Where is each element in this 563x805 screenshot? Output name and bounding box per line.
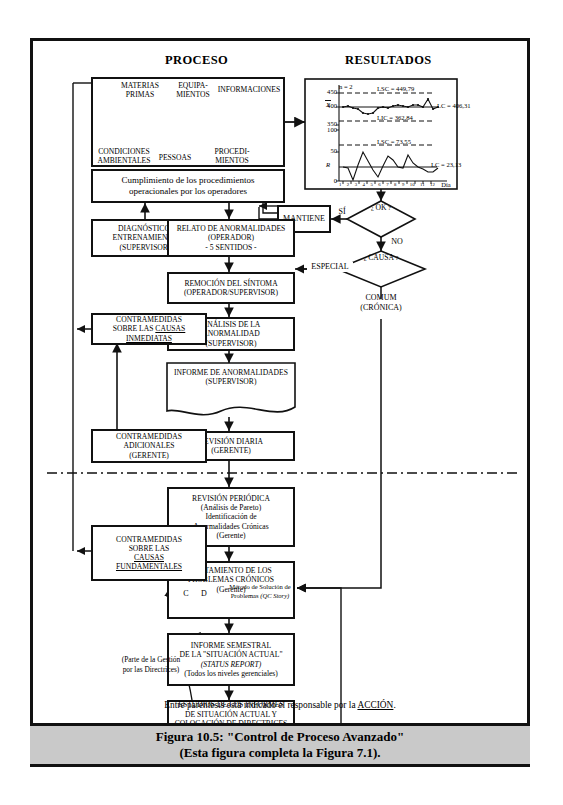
diagram-canvas: PROCESO RESULTADOS MATERIAS PRIMAS EQUIP… (33, 41, 533, 761)
caption-line-1: Figura 10.5: "Control de Proceso Avanzad… (156, 729, 404, 745)
chart-xbar-lc-label: LC = 406,31 (437, 102, 493, 110)
gestion-directrices-note: (Parte de la Gestión por las Directrices… (117, 655, 185, 675)
cause-informaciones: INFORMACIONES (215, 85, 283, 94)
chart-ytick-50: 50 (319, 147, 337, 155)
figure-footnote: Entre paréntesis está indicado el respon… (30, 700, 530, 710)
edge-label-si: SÍ (329, 207, 355, 217)
chart-ytick-400: 400 (319, 102, 337, 110)
chart-xlabel: Día (435, 181, 457, 189)
header-proceso: PROCESO (165, 53, 228, 68)
pdca-d-label: D (197, 589, 211, 599)
header-resultados: RESULTADOS (345, 53, 432, 68)
chart-ytick-100: 100 (319, 126, 337, 134)
node-cumplimiento: Cumplimiento de los procedimientos opera… (91, 169, 285, 203)
node-ok-diamond: ¿ OK ? (363, 204, 399, 212)
chart-xbar-lic-label: LIC = 362,84 (377, 114, 447, 122)
cause-procedimientos: PROCEDI- MIENTOS (207, 147, 257, 165)
chart-xtick-labels: 12 34 56 78 910 1112 (339, 182, 435, 188)
tratamiento-method-note: Método de Solución de Problemas (QC Stor… (229, 583, 291, 600)
node-remocion-sintoma: REMOCIÓN DEL SÍNTOMA (OPERADOR/SUPERVISO… (167, 272, 295, 304)
edge-label-no: NO (385, 237, 409, 247)
cause-equipamientos: EQUIPA- MIENTOS (167, 81, 219, 99)
node-contramedidas-inmediatas: CONTRAMEDIDAS SOBRE LAS CAUSAS INMEDIATA… (91, 313, 207, 345)
cause-pessoas: PESSOAS (153, 153, 197, 162)
edge-label-especial: ESPECIAL (307, 262, 353, 272)
chart-ytick-0: 0 (319, 177, 337, 185)
chart-r-lsc-label: LSC = 73,55 (377, 138, 447, 146)
cause-materias-primas: MATERIAS PRIMAS (111, 81, 169, 99)
node-causa-diamond: ¿ CAUSA ? (359, 254, 403, 262)
chart-r-lc-label: LC = 23,13 (431, 161, 487, 169)
figure-frame: PROCESO RESULTADOS MATERIAS PRIMAS EQUIP… (30, 38, 530, 758)
node-contramedidas-fundamentales: CONTRAMEDIDAS SOBRE LAS CAUSAS FUNDAMENT… (91, 525, 207, 581)
node-comum: COMUM (CRÓNICA) (353, 293, 409, 312)
caption-line-2: (Esta figura completa la Figura 7.1). (156, 745, 404, 761)
figure-caption-bar: Figura 10.5: "Control de Proceso Avanzad… (30, 723, 530, 767)
chart-ytick-450: 450 (319, 88, 337, 96)
node-relato-anormalidades: RELATO DE ANORMALIDADES (OPERADOR) - 5 S… (167, 219, 295, 257)
cause-condiciones-ambientales: CONDICIONES AMBIENTALES (91, 147, 157, 165)
chart-xbar-lsc-label: LSC = 449,79 (377, 85, 447, 93)
node-informe-anormalidades: INFORME DE ANORMALIDADES (SUPERVISOR) (173, 368, 289, 386)
node-contramedidas-adicionales: CONTRAMEDIDAS ADICIONALES (GERENTE) (91, 429, 207, 463)
node-informe-semestral: INFORME SEMESTRAL DE LA "SITUACIÓN ACTUA… (167, 633, 295, 686)
chart-axis-label-r: R (319, 161, 337, 169)
chart-subtitle: n = 2 (339, 83, 363, 91)
pdca-c-label: C (179, 589, 193, 599)
